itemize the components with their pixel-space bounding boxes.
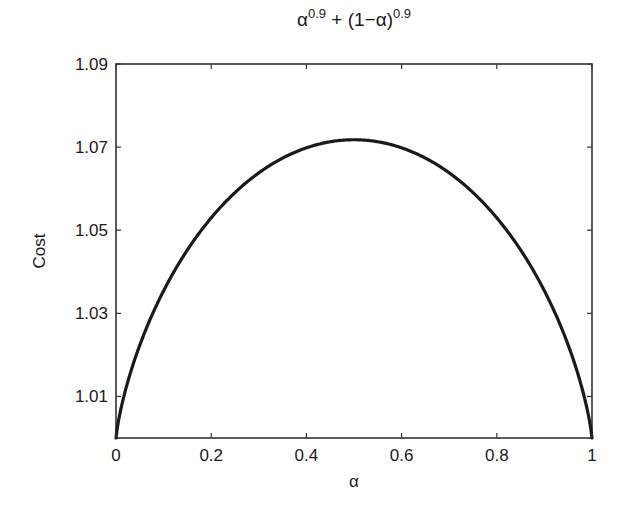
title-middle: + (1−α) [326,9,393,30]
y-tick-label: 1.07 [75,138,108,157]
y-axis-label: Cost [30,233,49,268]
y-axis: 1.011.031.051.071.09 [75,55,592,406]
x-tick-label: 1 [587,446,596,465]
chart: α0.9 + (1−α)0.9 00.20.40.60.81 1.011.031… [0,0,622,516]
plot-area [116,64,592,438]
series-line [116,140,592,438]
x-tick-label: 0.4 [295,446,319,465]
y-tick-label: 1.09 [75,55,108,74]
x-axis-label: α [349,472,359,491]
title-exponent-1: 0.9 [308,6,326,21]
title-exponent-2: 0.9 [393,6,411,21]
y-tick-label: 1.03 [75,304,108,323]
x-tick-label: 0.2 [199,446,223,465]
y-tick-label: 1.05 [75,221,108,240]
chart-title: α0.9 + (1−α)0.9 [297,6,411,30]
x-tick-label: 0.8 [485,446,509,465]
x-axis: 00.20.40.60.81 [111,64,596,465]
y-tick-label: 1.01 [75,387,108,406]
x-tick-label: 0.6 [390,446,414,465]
x-tick-label: 0 [111,446,120,465]
title-base-1: α [297,9,308,30]
